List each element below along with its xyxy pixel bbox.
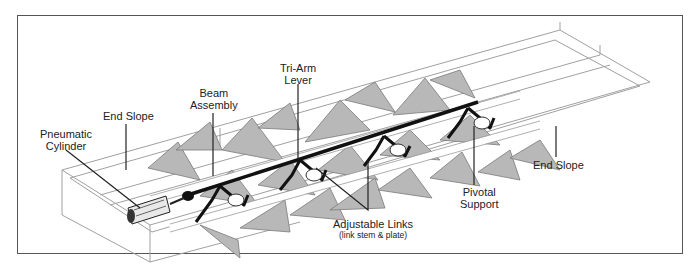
- label-line: Adjustable Links: [333, 218, 413, 230]
- label-line: Beam: [190, 87, 238, 99]
- label-beam-assembly: BeamAssembly: [190, 87, 238, 111]
- diagram-canvas: PneumaticCylinderEnd SlopeBeamAssemblyTr…: [0, 0, 696, 273]
- label-line: Cylinder: [40, 140, 92, 152]
- label-subtext: (link stem & plate): [333, 230, 413, 241]
- label-line: Tri-Arm: [280, 62, 316, 74]
- label-line: End Slope: [103, 110, 154, 122]
- label-line: Support: [460, 198, 499, 210]
- label-line: Assembly: [190, 99, 238, 111]
- label-line: End Slope: [533, 159, 584, 171]
- label-line: Pneumatic: [40, 128, 92, 140]
- beam-end-knob: [182, 191, 194, 201]
- label-end-slope-right: End Slope: [533, 159, 584, 171]
- label-line: Pivotal: [460, 186, 499, 198]
- label-pneumatic-cylinder: PneumaticCylinder: [40, 128, 92, 152]
- pneumatic-cylinder-drawing: [127, 196, 184, 224]
- label-pivotal-support: PivotalSupport: [460, 186, 499, 210]
- label-end-slope-left: End Slope: [103, 110, 154, 122]
- label-adjustable-links: Adjustable Links(link stem & plate): [333, 218, 413, 241]
- label-tri-arm-lever: Tri-ArmLever: [280, 62, 316, 86]
- label-line: Lever: [280, 74, 316, 86]
